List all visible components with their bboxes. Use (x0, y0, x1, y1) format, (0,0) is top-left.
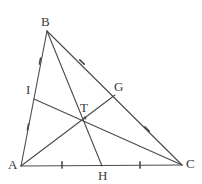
point-label-h-midpoint-ac: H (98, 169, 107, 182)
triangle-sides (21, 31, 182, 166)
segment-side-bc (47, 31, 182, 165)
segment-median-ag (21, 95, 115, 166)
point-label-i-midpoint-ab: I (26, 83, 30, 96)
point-label-g-midpoint-bc: G (114, 80, 123, 93)
triangle-medians (21, 31, 182, 166)
segment-median-ci (34, 99, 182, 165)
geometry-figure: A B C T G H I (0, 0, 202, 184)
centroid-dot (84, 117, 87, 120)
vertex-label-c: C (186, 157, 195, 170)
vertex-label-b: B (41, 15, 50, 28)
congruence-tick-marks (27, 58, 149, 168)
segment-median-bh (47, 31, 102, 166)
vertex-label-a: A (8, 158, 17, 171)
point-label-t-centroid: T (80, 101, 88, 114)
centroid-point-marker (84, 117, 87, 120)
